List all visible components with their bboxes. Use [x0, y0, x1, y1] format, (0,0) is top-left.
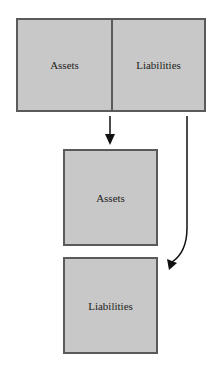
straight-arrow-icon	[105, 116, 115, 145]
arrows-layer	[0, 0, 214, 368]
curved-arrow-icon	[167, 116, 187, 270]
